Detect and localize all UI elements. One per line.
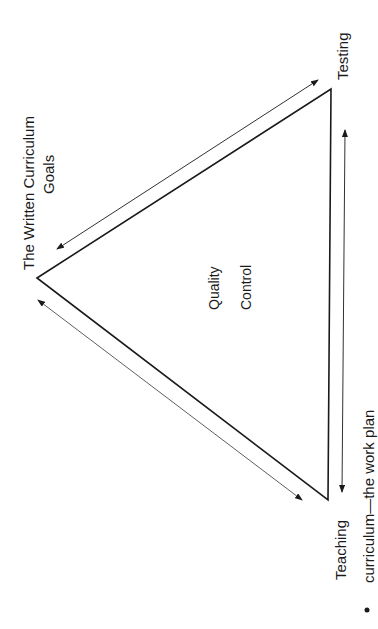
vertex-label-goals-line1: The Written Curriculum <box>20 116 37 270</box>
center-label-quality: Quality <box>206 266 222 310</box>
bullet-dot <box>365 608 370 613</box>
arrow-goals-testing <box>57 80 318 249</box>
vertex-label-teaching: Teaching <box>332 520 349 580</box>
arrow-testing-teaching <box>342 130 345 492</box>
center-label-control: Control <box>238 265 254 310</box>
arrow-goals-teaching <box>38 300 302 500</box>
bullet-text: curriculum—the work plan <box>360 410 377 583</box>
vertex-label-testing: Testing <box>334 32 351 80</box>
triangle <box>37 89 331 500</box>
vertex-label-goals-line2: Goals <box>40 155 57 194</box>
quality-control-triangle-diagram: The Written Curriculum Goals Testing Tea… <box>0 0 378 629</box>
